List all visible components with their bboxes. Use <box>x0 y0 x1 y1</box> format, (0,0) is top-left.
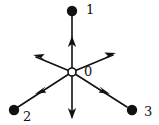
arrowhead-up-right <box>104 53 116 59</box>
ray-line-down-right <box>72 72 127 107</box>
dot-node-2 <box>9 105 19 115</box>
dot-node-1 <box>67 6 77 16</box>
node-1-label: 1 <box>86 3 94 16</box>
origin-label: 0 <box>84 65 92 78</box>
node-2-label: 2 <box>23 110 31 123</box>
ray-arrowheads <box>33 36 116 119</box>
vector-star-diagram: 1 0 2 3 <box>0 0 159 125</box>
origin-node <box>68 68 76 76</box>
ray-line-down-left <box>18 72 72 107</box>
ray-lines <box>18 13 127 117</box>
ray-line-up-right <box>72 55 113 72</box>
terminal-dots <box>9 6 137 115</box>
diagram-canvas <box>0 0 159 125</box>
dot-node-3 <box>127 105 137 115</box>
ray-line-up-left <box>36 57 72 72</box>
node-3-label: 3 <box>144 105 152 118</box>
